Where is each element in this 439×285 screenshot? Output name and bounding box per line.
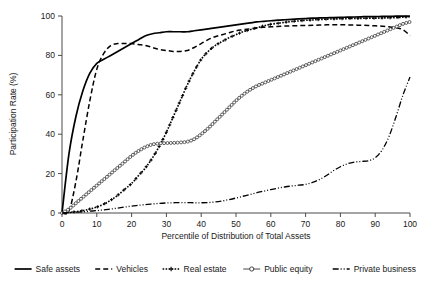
series-marker bbox=[204, 130, 207, 133]
series-marker bbox=[320, 57, 323, 60]
series-marker bbox=[246, 90, 249, 93]
series-marker bbox=[283, 73, 286, 76]
series-marker bbox=[98, 182, 101, 185]
series-marker bbox=[405, 21, 408, 24]
series-marker bbox=[395, 25, 398, 28]
series-marker bbox=[95, 184, 98, 187]
series-marker bbox=[330, 53, 333, 56]
series-marker bbox=[193, 138, 196, 141]
series-marker bbox=[80, 197, 83, 200]
series-line bbox=[62, 22, 410, 213]
series-marker bbox=[270, 78, 273, 81]
y-tick-label: 40 bbox=[46, 129, 56, 139]
series-marker bbox=[92, 186, 95, 189]
series-marker bbox=[380, 32, 383, 35]
series-marker bbox=[238, 96, 241, 99]
series-marker bbox=[166, 142, 169, 145]
legend-label: Vehicles bbox=[116, 264, 148, 274]
series-marker bbox=[364, 38, 367, 41]
legend-item-vehicles[interactable]: Vehicles bbox=[95, 264, 148, 274]
series-marker bbox=[129, 183, 132, 186]
series-marker bbox=[240, 94, 243, 97]
legend-item-private-business[interactable]: Private business bbox=[333, 264, 416, 274]
series-marker bbox=[314, 60, 317, 63]
series-marker bbox=[267, 80, 270, 83]
legend-label: Safe assets bbox=[36, 264, 80, 274]
series-marker bbox=[235, 99, 238, 102]
legend-marker-icon bbox=[250, 267, 254, 271]
series-marker bbox=[103, 178, 106, 181]
series-marker bbox=[111, 171, 114, 174]
x-tick-label: 50 bbox=[231, 219, 241, 229]
series-marker bbox=[233, 101, 236, 104]
series-marker bbox=[198, 134, 201, 137]
series-marker bbox=[168, 123, 171, 126]
series-marker bbox=[339, 49, 342, 52]
series-marker bbox=[105, 175, 108, 178]
series-marker bbox=[345, 46, 348, 49]
series-marker bbox=[121, 162, 124, 165]
chart-figure: 0102030405060708090100 020406080100 Perc… bbox=[0, 0, 439, 285]
series-marker bbox=[326, 54, 329, 57]
x-tick-label: 60 bbox=[266, 219, 276, 229]
series-marker bbox=[311, 61, 314, 64]
legend-item-safe-assets[interactable]: Safe assets bbox=[15, 264, 80, 274]
series-marker bbox=[196, 136, 199, 139]
series-marker bbox=[201, 132, 204, 135]
series-marker bbox=[333, 52, 336, 55]
series-marker bbox=[348, 45, 351, 48]
series-marker bbox=[273, 77, 276, 80]
series-marker bbox=[216, 118, 219, 121]
series-marker bbox=[66, 208, 69, 211]
series-real-estate bbox=[62, 15, 410, 214]
series-marker bbox=[238, 32, 241, 35]
series-marker bbox=[225, 108, 228, 111]
series-private-business bbox=[62, 77, 410, 213]
series-marker bbox=[269, 23, 272, 26]
series-marker bbox=[69, 206, 72, 209]
series-marker bbox=[149, 159, 152, 162]
series-marker bbox=[367, 37, 370, 40]
series-marker bbox=[386, 29, 389, 32]
x-tick-label: 90 bbox=[370, 219, 380, 229]
series-marker bbox=[134, 151, 137, 154]
series-marker bbox=[336, 50, 339, 53]
series-marker bbox=[264, 81, 267, 84]
series-marker bbox=[173, 141, 176, 144]
series-marker bbox=[408, 21, 411, 24]
series-marker bbox=[279, 74, 282, 77]
series-marker bbox=[218, 115, 221, 118]
series-marker bbox=[289, 70, 292, 73]
series-marker bbox=[286, 72, 289, 75]
series-marker bbox=[85, 193, 88, 196]
series-marker bbox=[213, 120, 216, 123]
series-marker bbox=[74, 202, 77, 205]
chart-canvas: 0102030405060708090100 020406080100 Perc… bbox=[0, 0, 439, 285]
x-tick-label: 20 bbox=[127, 219, 137, 229]
axes bbox=[62, 16, 410, 213]
series-marker bbox=[143, 146, 146, 149]
series-marker bbox=[199, 58, 202, 61]
series-marker bbox=[118, 164, 121, 167]
series-marker bbox=[82, 195, 85, 198]
series-marker bbox=[261, 82, 264, 85]
series-marker bbox=[77, 200, 80, 203]
series-marker bbox=[158, 145, 161, 148]
data-series-group bbox=[61, 15, 412, 214]
series-line bbox=[62, 77, 410, 213]
series-marker bbox=[230, 103, 233, 106]
series-marker bbox=[87, 191, 90, 194]
series-marker bbox=[301, 65, 304, 68]
series-marker bbox=[186, 140, 189, 143]
legend-marker-icon bbox=[169, 267, 173, 271]
legend-label: Public equity bbox=[264, 264, 313, 274]
legend-item-public-equity[interactable]: Public equity bbox=[243, 264, 313, 274]
series-marker bbox=[126, 158, 129, 161]
series-marker bbox=[249, 88, 252, 91]
series-marker bbox=[383, 30, 386, 33]
series-marker bbox=[228, 106, 231, 109]
series-marker bbox=[209, 125, 212, 128]
legend-item-real-estate[interactable]: Real estate bbox=[163, 264, 227, 274]
series-marker bbox=[304, 64, 307, 67]
series-marker bbox=[401, 22, 404, 25]
